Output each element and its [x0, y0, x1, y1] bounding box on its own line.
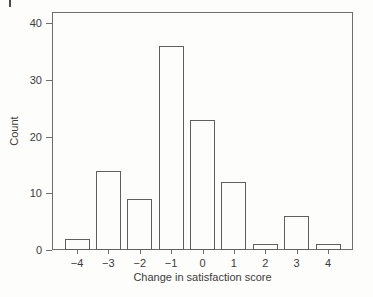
x-tick-label: 1 [219, 258, 249, 269]
y-tick-mark [46, 250, 52, 251]
y-tick-mark [46, 80, 52, 81]
bar-score-1 [221, 182, 246, 250]
x-tick-mark [140, 250, 141, 254]
x-tick-label: 0 [188, 258, 218, 269]
x-tick-mark [77, 250, 78, 254]
y-tick-label: 0 [12, 245, 42, 256]
x-tick-label: −4 [62, 258, 92, 269]
x-tick-mark [108, 250, 109, 254]
x-tick-label: 4 [313, 258, 343, 269]
x-tick-mark [234, 250, 235, 254]
bar-score--4 [65, 239, 90, 250]
y-tick-label: 40 [12, 18, 42, 29]
histogram-figure: 010203040 −4−3−2−101234 Count Change in … [0, 0, 373, 297]
bar-score--2 [127, 199, 152, 250]
x-tick-label: −3 [93, 258, 123, 269]
y-tick-mark [46, 193, 52, 194]
y-tick-mark [46, 137, 52, 138]
scan-artifact-mark [9, 0, 11, 7]
x-tick-mark [203, 250, 204, 254]
bar-score-3 [284, 216, 309, 250]
x-tick-label: 2 [250, 258, 280, 269]
bar-score-0 [190, 120, 215, 250]
y-tick-mark [46, 23, 52, 24]
x-tick-mark [297, 250, 298, 254]
bar-score--3 [96, 171, 121, 250]
x-tick-label: 3 [282, 258, 312, 269]
x-tick-mark [171, 250, 172, 254]
y-axis-label: Count [8, 71, 20, 191]
bar-score--1 [159, 46, 184, 250]
x-axis-label: Change in satisfaction score [52, 271, 353, 283]
x-tick-label: −2 [125, 258, 155, 269]
x-tick-mark [265, 250, 266, 254]
x-tick-label: −1 [156, 258, 186, 269]
x-tick-mark [328, 250, 329, 254]
